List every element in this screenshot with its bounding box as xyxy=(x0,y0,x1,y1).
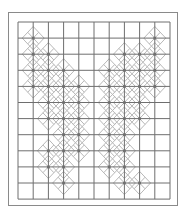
intersection-dot xyxy=(62,149,65,152)
intersection-dot xyxy=(47,53,50,56)
intersection-dot xyxy=(47,101,50,104)
intersection-dot xyxy=(138,181,141,184)
intersection-dot xyxy=(123,133,126,136)
intersection-dot xyxy=(138,117,141,120)
intersection-dot xyxy=(32,69,35,72)
intersection-dot xyxy=(153,85,156,88)
intersection-dot xyxy=(108,149,111,152)
intersection-dot xyxy=(108,133,111,136)
intersection-dot xyxy=(138,69,141,72)
intersection-dot xyxy=(32,85,35,88)
intersection-dot xyxy=(123,101,126,104)
intersection-dot xyxy=(123,85,126,88)
intersection-dot xyxy=(62,165,65,168)
intersection-dot xyxy=(153,37,156,40)
intersection-dot xyxy=(153,53,156,56)
intersection-dot xyxy=(77,133,80,136)
intersection-dot xyxy=(77,117,80,120)
intersection-dot xyxy=(123,69,126,72)
intersection-dot xyxy=(47,69,50,72)
intersection-dot xyxy=(153,69,156,72)
intersection-dot xyxy=(62,133,65,136)
intersection-dot xyxy=(108,69,111,72)
intersection-dot xyxy=(62,85,65,88)
intersection-dot xyxy=(123,181,126,184)
intersection-dot xyxy=(47,117,50,120)
intersection-dot xyxy=(108,101,111,104)
intersection-dot xyxy=(62,117,65,120)
intersection-dot xyxy=(138,53,141,56)
intersection-dot xyxy=(62,181,65,184)
intersection-dot xyxy=(62,69,65,72)
intersection-dot xyxy=(108,165,111,168)
intersection-dot xyxy=(32,53,35,56)
intersection-dot xyxy=(138,85,141,88)
intersection-dot xyxy=(123,149,126,152)
intersection-dot xyxy=(77,149,80,152)
intersection-dot xyxy=(77,101,80,104)
intersection-dot xyxy=(138,101,141,104)
intersection-dot xyxy=(47,149,50,152)
intersection-dot xyxy=(123,165,126,168)
intersection-dot xyxy=(108,117,111,120)
grid-diagram xyxy=(0,0,187,216)
intersection-dot xyxy=(32,37,35,40)
intersection-dot xyxy=(77,85,80,88)
intersection-dot xyxy=(123,117,126,120)
intersection-dot xyxy=(47,85,50,88)
intersection-dot xyxy=(47,165,50,168)
intersection-dot xyxy=(123,53,126,56)
intersection-dot xyxy=(108,85,111,88)
intersection-dot xyxy=(62,101,65,104)
